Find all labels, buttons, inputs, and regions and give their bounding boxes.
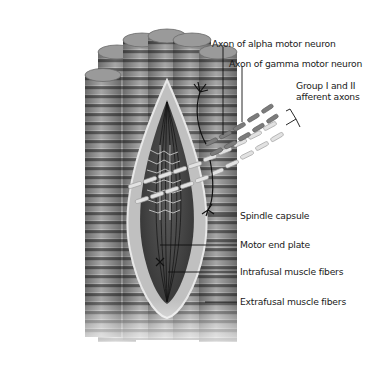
label-gamma-axon: Axon of gamma motor neuron (229, 58, 362, 69)
diagram-illustration (0, 0, 369, 367)
label-alpha-axon: Axon of alpha motor neuron (212, 38, 336, 49)
label-extrafusal-fibers: Extrafusal muscle fibers (240, 296, 346, 307)
label-motor-end-plate: Motor end plate (240, 239, 310, 250)
muscle-spindle-diagram: Axon of alpha motor neuron Axon of gamma… (0, 0, 369, 367)
label-afferent-line2: afferent axons (296, 91, 360, 102)
label-spindle-capsule: Spindle capsule (240, 210, 309, 221)
label-intrafusal-fibers: Intrafusal muscle fibers (240, 266, 343, 277)
label-afferent-line1: Group I and II (296, 80, 355, 91)
